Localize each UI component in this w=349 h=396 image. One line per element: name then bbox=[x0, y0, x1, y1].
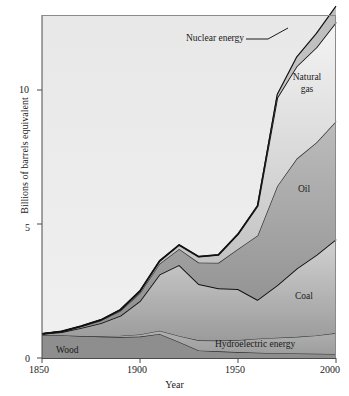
x-tick-label-1850: 1850 bbox=[29, 364, 49, 375]
chart-canvas bbox=[0, 0, 349, 396]
band-label-coal: Coal bbox=[281, 291, 327, 301]
energy-consumption-chart: Billions of barrels equivalent Year 0 5 … bbox=[0, 0, 349, 396]
band-label-hydroelectric-energy: Hydroelectric energy bbox=[215, 339, 295, 349]
y-tick-label-5: 5 bbox=[25, 222, 30, 233]
y-tick-label-10: 10 bbox=[19, 84, 29, 95]
x-axis-title: Year bbox=[0, 379, 349, 390]
band-label-oil: Oil bbox=[284, 184, 324, 194]
x-tick-label-1950: 1950 bbox=[225, 364, 245, 375]
x-tick-label-1900: 1900 bbox=[127, 364, 147, 375]
band-label-natural-gas-line2: gas bbox=[279, 84, 335, 94]
band-label-nuclear-energy: Nuclear energy bbox=[186, 33, 244, 43]
y-tick-label-0: 0 bbox=[25, 353, 30, 364]
x-tick-label-2000: 2000 bbox=[320, 364, 340, 375]
band-label-wood: Wood bbox=[56, 345, 78, 355]
y-axis-title: Billions of barrels equivalent bbox=[19, 76, 30, 236]
band-label-natural-gas-line1: Natural bbox=[279, 72, 335, 82]
